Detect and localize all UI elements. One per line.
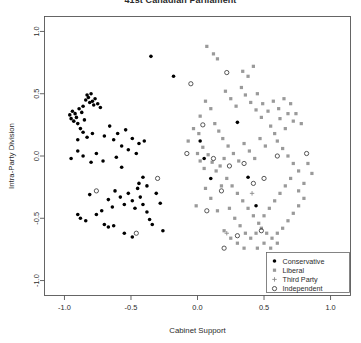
data-point	[103, 223, 107, 227]
legend-marker-filled-circle	[273, 259, 277, 263]
data-point	[107, 225, 111, 229]
data-point	[222, 229, 225, 232]
data-point	[244, 232, 247, 235]
data-point	[89, 160, 93, 164]
data-point	[228, 207, 231, 210]
data-point	[172, 75, 176, 79]
data-point	[84, 98, 88, 102]
data-point	[221, 137, 224, 140]
data-point	[209, 197, 212, 200]
data-point	[225, 70, 229, 74]
data-point	[225, 177, 228, 180]
data-point	[115, 155, 119, 159]
data-point	[141, 203, 145, 207]
data-point	[91, 132, 95, 136]
data-point	[76, 138, 80, 142]
data-point	[119, 195, 123, 199]
data-point	[204, 100, 207, 103]
data-point	[84, 219, 88, 223]
data-point	[141, 175, 145, 179]
data-point	[207, 153, 210, 156]
data-point	[77, 107, 81, 111]
x-axis-tick-label: 0.5	[259, 303, 269, 312]
data-point	[120, 144, 124, 148]
data-point	[123, 203, 127, 207]
data-point	[202, 157, 206, 161]
data-point	[262, 242, 265, 245]
data-point	[282, 97, 285, 100]
x-axis-title: Cabinet Support	[169, 326, 226, 335]
data-point	[256, 92, 259, 95]
data-point	[258, 137, 261, 140]
scatter-plot: -1.0-0.50.00.51.0-1.0-0.50.00.51.0Cabine…	[0, 0, 361, 343]
data-point	[204, 187, 207, 190]
data-point	[75, 116, 79, 120]
data-point	[85, 136, 89, 140]
data-point	[310, 172, 313, 175]
data-point	[268, 207, 271, 210]
data-point	[289, 102, 292, 105]
y-axis-tick-label: -1.0	[32, 274, 41, 287]
data-point	[256, 247, 259, 250]
data-point	[154, 192, 158, 196]
data-point	[302, 197, 305, 200]
data-point	[87, 96, 91, 100]
data-point	[241, 199, 244, 202]
data-point	[213, 122, 216, 125]
data-point	[220, 184, 223, 187]
data-point	[100, 209, 104, 213]
data-point	[76, 149, 80, 153]
data-point	[112, 224, 116, 228]
x-axis-tick-label: 1.0	[325, 303, 335, 312]
data-point	[222, 246, 226, 250]
data-point	[135, 152, 139, 156]
data-point	[145, 210, 149, 214]
data-point	[69, 157, 73, 161]
data-point	[242, 247, 245, 250]
data-point	[269, 247, 272, 250]
data-point	[236, 121, 240, 125]
data-point	[254, 232, 257, 235]
data-point	[187, 139, 190, 142]
data-point	[292, 120, 295, 123]
data-point	[216, 57, 219, 60]
data-point	[197, 132, 200, 135]
x-axis-tick-label: 0.0	[192, 303, 202, 312]
data-point	[127, 192, 131, 196]
data-point	[76, 213, 80, 217]
data-point	[88, 193, 92, 197]
data-point	[137, 182, 141, 186]
data-point	[277, 107, 280, 110]
data-point	[281, 147, 284, 150]
data-points-layer	[68, 45, 314, 251]
data-point	[209, 177, 213, 181]
data-point	[68, 113, 72, 117]
data-point	[270, 237, 273, 240]
data-point	[203, 167, 206, 170]
data-point	[254, 204, 258, 208]
data-point	[150, 223, 154, 227]
data-point	[275, 154, 279, 158]
data-point	[134, 231, 138, 235]
data-point	[227, 164, 231, 168]
data-point	[246, 75, 249, 78]
data-point	[185, 151, 189, 155]
data-point	[149, 55, 153, 59]
data-point	[95, 213, 99, 217]
data-point	[72, 119, 76, 123]
data-point	[131, 137, 135, 141]
data-point	[248, 149, 251, 152]
data-point	[273, 132, 276, 135]
legend-marker-filled-square	[273, 269, 276, 272]
data-point	[94, 189, 98, 193]
data-point	[216, 209, 219, 212]
data-point	[250, 191, 254, 195]
data-point	[222, 157, 225, 160]
data-point	[297, 189, 300, 192]
data-point	[92, 103, 96, 107]
data-point	[254, 108, 257, 111]
data-point	[224, 90, 227, 93]
data-point	[230, 184, 233, 187]
data-point	[81, 131, 85, 135]
data-point	[196, 152, 199, 155]
